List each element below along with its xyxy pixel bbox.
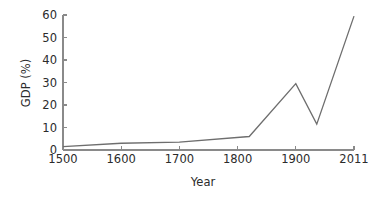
y-tick-label: 60 (42, 8, 57, 22)
y-tick-label: 50 (42, 31, 57, 45)
x-tick-label: 1800 (223, 152, 252, 166)
gdp-series-line (63, 16, 354, 147)
y-tick-label: 40 (42, 53, 57, 67)
x-tick-label: 2011 (339, 152, 368, 166)
y-tick-label: 20 (42, 98, 57, 112)
x-tick-label: 1900 (281, 152, 310, 166)
chart-figure: 150016001700180019002011 0102030405060 Y… (0, 0, 378, 200)
y-tick-label: 10 (42, 121, 57, 135)
x-axis-tick-labels: 150016001700180019002011 (48, 152, 368, 166)
line-chart-canvas: 150016001700180019002011 0102030405060 Y… (0, 0, 378, 200)
x-axis-title: Year (190, 175, 216, 189)
y-tick-label: 30 (42, 76, 57, 90)
x-tick-label: 1700 (165, 152, 194, 166)
y-axis-tick-labels: 0102030405060 (42, 8, 57, 157)
y-axis-title: GDP (%) (19, 59, 33, 107)
x-tick-label: 1600 (107, 152, 136, 166)
y-tick-label: 0 (50, 143, 57, 157)
